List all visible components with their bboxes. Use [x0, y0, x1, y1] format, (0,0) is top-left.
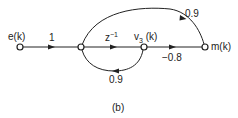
node-label-m: m(k) — [211, 42, 231, 52]
figure-caption: (b) — [112, 103, 124, 113]
graph-lines — [0, 0, 238, 118]
node-label-v3: v3 (k) — [134, 32, 157, 44]
gain-label-n2-v3: z−1 — [105, 31, 118, 43]
gain-label-v3-n2-arc: 0.9 — [109, 75, 123, 85]
gain-label-e-n2: 1 — [49, 33, 55, 43]
node-e — [17, 44, 23, 50]
node-m — [202, 44, 208, 50]
branch-v3-to-m — [147, 45, 202, 50]
node-v3 — [141, 44, 147, 50]
gain-label-n2-m-arc: 0.9 — [185, 9, 199, 19]
signal-flow-graph: e(k) 1 z−1 v3 (k) m(k) −0.8 0.9 0.9 (b) — [0, 0, 238, 118]
branch-n2-to-v3 — [84, 45, 141, 50]
gain-exponent: −1 — [110, 31, 118, 38]
node-n2 — [78, 44, 84, 50]
gain-label-v3-m: −0.8 — [162, 53, 182, 63]
v3-suffix: (k) — [143, 31, 157, 42]
branch-v3-to-n2-arc — [82, 50, 143, 74]
branch-e-to-n2 — [23, 45, 78, 50]
node-label-e: e(k) — [8, 32, 25, 42]
